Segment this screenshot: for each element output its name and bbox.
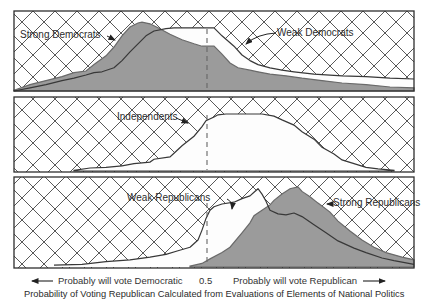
axis-midpoint-value: 0.5 [199,275,212,286]
axis-label-democratic: Probably will vote Democratic [58,275,183,286]
figure-canvas [0,0,429,308]
panel-republicans [14,177,414,268]
independents-label: Independents [117,111,178,122]
panel-democrats [14,11,414,91]
partisanship-vote-probability-figure: Strong Democrats Weak Democrats Independ… [0,0,429,308]
axis-label-republican: Probably will vote Republican [233,275,357,286]
weak-republicans-label: Weak Republicans [127,192,210,203]
panel-independents [14,97,414,172]
strong-republicans-label: Strong Republicans [333,197,420,208]
weak-democrats-label: Weak Democrats [277,27,354,38]
strong-democrats-label: Strong Democrats [20,29,101,40]
figure-caption: Probability of Voting Republican Calcula… [24,289,404,299]
